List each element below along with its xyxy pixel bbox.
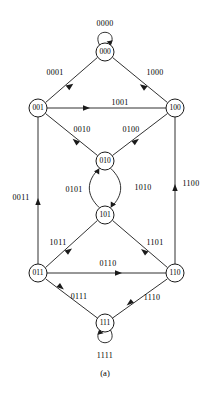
edge-label-0110: 0110 [100, 259, 117, 268]
edge-0100 [113, 114, 168, 156]
nodes-layer: 000 001 100 010 101 011 [29, 43, 184, 332]
arrow-head-0001 [66, 84, 74, 91]
edge-line-1000 [113, 58, 167, 103]
edge-label-0101: 0101 [65, 185, 82, 194]
edge-line-0010 [46, 114, 98, 156]
edge-label-0011: 0011 [13, 193, 30, 202]
edge-1000 [113, 58, 167, 103]
edge-1001 [47, 105, 166, 110]
edge-label-0010: 0010 [73, 125, 90, 134]
edge-label-0001: 0001 [46, 68, 63, 77]
edge-line-0100 [113, 114, 168, 156]
node-110[interactable]: 110 [166, 264, 184, 282]
edge-labels-layer: 0000 0001 1000 1001 0010 0100 0101 1010 … [13, 19, 200, 360]
edge-label-1101: 1101 [147, 238, 164, 247]
arrow-head-1100 [172, 184, 177, 191]
edge-label-1010: 1010 [134, 183, 151, 192]
edge-label-1110: 1110 [144, 293, 161, 302]
node-label-111: 111 [100, 318, 111, 327]
edge-label-1111: 1111 [97, 351, 113, 360]
edge-0101 [89, 168, 99, 207]
edge-1100 [172, 117, 177, 264]
node-001[interactable]: 001 [29, 99, 47, 117]
edge-line-1010 [111, 168, 121, 207]
arrow-head-0011 [35, 198, 40, 205]
node-000[interactable]: 000 [96, 43, 114, 61]
node-label-001: 001 [32, 103, 44, 112]
node-label-000: 000 [99, 47, 111, 56]
node-010[interactable]: 010 [96, 152, 114, 170]
edge-0011 [35, 117, 40, 264]
arrow-head-1001 [83, 105, 90, 110]
edge-label-1011: 1011 [50, 238, 67, 247]
node-label-101: 101 [99, 210, 111, 219]
node-label-010: 010 [99, 156, 111, 165]
edge-label-0100: 0100 [122, 125, 139, 134]
state-diagram-graph: 000 001 100 010 101 011 [0, 0, 211, 400]
edge-label-1000: 1000 [146, 68, 163, 77]
edge-line-0001 [46, 58, 97, 103]
node-011[interactable]: 011 [29, 264, 47, 282]
edge-line-0101 [89, 168, 99, 207]
edge-0001 [46, 58, 97, 103]
edge-1010 [111, 168, 121, 207]
node-label-110: 110 [170, 268, 181, 277]
edge-label-0111: 0111 [71, 292, 88, 301]
node-101[interactable]: 101 [96, 206, 114, 224]
edge-0010 [46, 114, 98, 156]
edge-label-0000: 0000 [96, 19, 113, 28]
arrow-head-0010 [73, 139, 80, 146]
node-label-100: 100 [169, 103, 181, 112]
figure-container: 000 001 100 010 101 011 [0, 0, 211, 400]
arrow-head-1110 [127, 299, 134, 305]
figure-caption: (a) [100, 368, 110, 378]
edge-0110 [47, 270, 166, 275]
arrow-head-0111 [57, 283, 64, 290]
arrow-head-0110 [115, 270, 122, 275]
node-100[interactable]: 100 [166, 99, 184, 117]
node-111[interactable]: 111 [96, 314, 114, 332]
edge-label-1100: 1100 [183, 179, 200, 188]
node-label-011: 011 [33, 268, 44, 277]
edge-label-1001: 1001 [111, 98, 128, 107]
